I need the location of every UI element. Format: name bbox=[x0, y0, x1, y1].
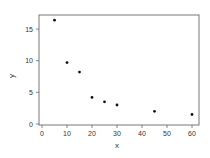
data-point bbox=[153, 110, 156, 113]
scatter-chart: 0102030405060 051015 x y bbox=[0, 0, 210, 158]
x-tick-label: 10 bbox=[63, 130, 71, 137]
y-tick-label: 15 bbox=[25, 26, 33, 33]
y-tick-label: 10 bbox=[25, 57, 33, 64]
y-axis-label: y bbox=[7, 74, 16, 78]
data-point bbox=[78, 71, 81, 74]
x-axis-label: x bbox=[115, 141, 119, 150]
data-point bbox=[191, 113, 194, 116]
plot-area bbox=[39, 15, 199, 125]
data-point bbox=[53, 19, 56, 22]
x-axis-ticks: 0102030405060 bbox=[40, 125, 196, 137]
data-point bbox=[103, 100, 106, 103]
y-tick-label: 0 bbox=[29, 121, 33, 128]
x-tick-label: 20 bbox=[88, 130, 96, 137]
data-point bbox=[91, 96, 94, 99]
data-point bbox=[116, 104, 119, 107]
y-axis-ticks: 051015 bbox=[25, 26, 39, 128]
x-tick-label: 0 bbox=[40, 130, 44, 137]
x-tick-label: 30 bbox=[113, 130, 121, 137]
x-tick-label: 60 bbox=[188, 130, 196, 137]
data-point bbox=[66, 61, 69, 64]
x-tick-label: 40 bbox=[138, 130, 146, 137]
y-tick-label: 5 bbox=[29, 89, 33, 96]
x-tick-label: 50 bbox=[163, 130, 171, 137]
